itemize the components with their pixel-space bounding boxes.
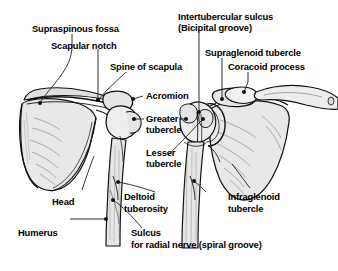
label-humerus: Humerus <box>18 228 58 239</box>
dot-supraglenoid-tubercle <box>220 97 224 101</box>
dot-deltoid-tuberosity-left <box>116 180 120 184</box>
dot-spine-of-scapula <box>96 98 100 102</box>
dot-greater-tubercle-right <box>184 117 188 121</box>
dot-intertubercular-sulcus <box>197 110 201 114</box>
dot-humerus <box>104 217 108 221</box>
humerus-shaft-anterior <box>182 142 204 248</box>
greater-tubercle-anterior <box>180 104 198 123</box>
label-lesser-tubercle-line1: Lesser <box>146 148 175 159</box>
label-lesser-tubercle-line2: tubercle <box>146 159 181 170</box>
dot-supraspinous-fossa <box>38 101 42 105</box>
dot-acromion <box>131 97 135 101</box>
label-scapular-notch: Scapular notch <box>51 41 117 52</box>
label-infraglenoid-tubercle-line2: tubercle <box>228 204 263 215</box>
label-intertubercular-sulcus: Intertubercular sulcus <box>178 12 273 23</box>
dot-greater-tubercle-left <box>132 117 136 121</box>
label-head: Head <box>52 197 74 208</box>
label-supraspinous-fossa: Supraspinous fossa <box>32 24 119 35</box>
dot-sulcus-radial-nerve <box>111 198 115 202</box>
label-acromion: Acromion <box>146 91 189 102</box>
anterior-view-group <box>180 86 338 248</box>
label-coracoid-process: Coracoid process <box>228 62 305 73</box>
label-spine-of-scapula: Spine of scapula <box>110 62 182 73</box>
label-greater-tubercle-line1: Greater <box>146 114 178 125</box>
label-greater-tubercle-line2: tubercle <box>146 125 181 136</box>
anatomy-figure: Supraspinous fossa Scapular notch Spine … <box>0 0 338 271</box>
posterior-view-group <box>20 88 142 246</box>
label-infraglenoid-tubercle-line1: Infraglenoid <box>228 192 280 203</box>
label-deltoid-tuberosity-line1: Deltoid <box>124 192 155 203</box>
dot-deltoid-tuberosity-right <box>192 179 196 183</box>
label-sulcus-radial-nerve: for radial nerve (spiral groove) <box>131 240 262 251</box>
dot-coracoid-process <box>242 90 246 94</box>
dot-lesser-tubercle <box>201 117 205 121</box>
label-sulcus: Sulcus <box>131 228 161 239</box>
scapula-body-anterior <box>209 101 290 200</box>
label-supraglenoid-tubercle: Supraglenoid tubercle <box>205 48 301 59</box>
scapula-body-posterior <box>20 99 96 191</box>
label-deltoid-tuberosity-line2: tuberosity <box>124 204 168 215</box>
label-bicipital-groove: (Bicipital groove) <box>178 23 252 34</box>
clavicle-acromial-end <box>328 97 334 105</box>
